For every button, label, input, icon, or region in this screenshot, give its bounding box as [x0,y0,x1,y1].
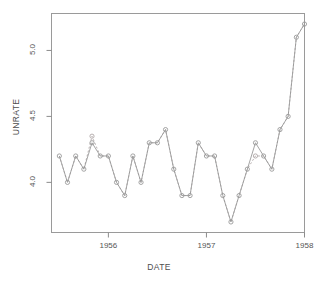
y-tick-label: 5.0 [27,37,36,63]
x-axis-ticks [108,233,304,238]
y-tick-label: 4.5 [27,103,36,129]
series-line-alternate [59,24,304,222]
y-tick-label: 4.0 [27,169,36,195]
plot-box [52,14,305,233]
chart-figure: UNRATE DATE 4.04.55.0195619571958 [0,0,318,282]
y-axis-ticks [47,50,52,182]
x-tick-label: 1956 [93,241,123,250]
x-axis-title: DATE [129,262,189,272]
x-tick-label: 1958 [290,241,319,250]
chart-canvas [0,0,318,282]
series-line-actual [59,24,304,222]
series-markers [57,22,306,224]
y-axis-title: UNRATE [11,87,21,147]
x-tick-label: 1957 [191,241,221,250]
